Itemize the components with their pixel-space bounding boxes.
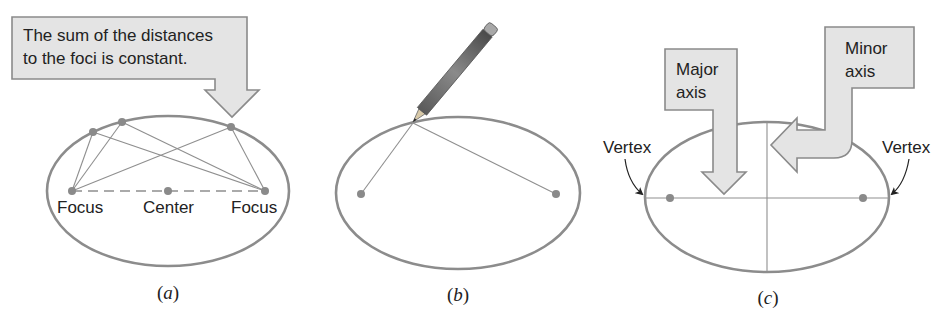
point-on-ellipse bbox=[89, 128, 97, 136]
string-to-left-focus bbox=[361, 123, 413, 194]
caption-a: (a) bbox=[157, 282, 179, 304]
left-focus-point bbox=[357, 190, 365, 198]
panel-b: (b) bbox=[336, 22, 580, 306]
center-label: Center bbox=[143, 198, 194, 217]
right-vertex-label: Vertex bbox=[882, 138, 931, 157]
left-vertex-arrow bbox=[625, 159, 642, 194]
minor-axis-label-line-2: axis bbox=[845, 62, 875, 81]
minor-axis-label-line-1: Minor bbox=[845, 39, 888, 58]
right-vertex-arrow bbox=[892, 159, 909, 194]
point-on-ellipse bbox=[227, 123, 235, 131]
left-focus-point bbox=[68, 187, 76, 195]
callout-text-line-1: The sum of the distances bbox=[23, 26, 213, 45]
major-axis-label-line-2: axis bbox=[676, 83, 706, 102]
panel-c: Major axis Minor axis Vertex Vertex (c) bbox=[603, 27, 931, 309]
focal-distance-lines bbox=[72, 122, 265, 191]
ellipse-b bbox=[336, 117, 580, 269]
left-vertex-label: Vertex bbox=[603, 138, 652, 157]
panel-a: Focus Center Focus The sum of the distan… bbox=[12, 17, 289, 304]
left-focus-label: Focus bbox=[57, 198, 103, 217]
caption-c: (c) bbox=[757, 287, 778, 309]
right-focus-point bbox=[552, 190, 560, 198]
right-focus-label: Focus bbox=[231, 198, 277, 217]
point-on-ellipse bbox=[118, 118, 126, 126]
ellipse-figure: Focus Center Focus The sum of the distan… bbox=[0, 0, 946, 321]
callout-text-line-2: to the foci is constant. bbox=[23, 49, 187, 68]
left-focus-point bbox=[666, 194, 674, 202]
right-focus-point bbox=[261, 187, 269, 195]
major-axis-label-line-1: Major bbox=[676, 60, 719, 79]
right-focus-point bbox=[859, 194, 867, 202]
pencil-icon bbox=[408, 22, 498, 126]
center-point bbox=[164, 187, 172, 195]
caption-b: (b) bbox=[447, 284, 469, 306]
